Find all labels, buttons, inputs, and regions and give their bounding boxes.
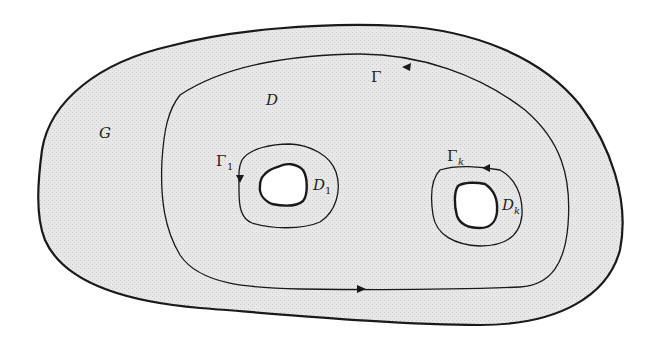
label-d1-sub: 1 [325, 185, 331, 196]
label-gamma-k-sub: k [458, 156, 464, 167]
label-d1: D [312, 176, 325, 194]
label-dk-sub: k [514, 205, 520, 216]
region-g-boundary [38, 25, 622, 325]
label-gamma-1-sub: 1 [227, 161, 233, 172]
hole-dk [455, 183, 497, 228]
label-gamma-1: Γ [216, 152, 226, 170]
label-gamma-k: Γ [447, 147, 457, 165]
label-g: G [99, 124, 111, 142]
label-d: D [265, 91, 278, 109]
diagram-canvas: G D Γ Γ 1 D 1 Γ k D k [0, 0, 660, 343]
label-gamma: Γ [371, 68, 381, 86]
label-dk: D [501, 196, 514, 214]
